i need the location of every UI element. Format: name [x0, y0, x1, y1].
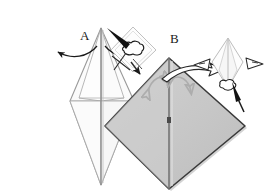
label-b: B [170, 31, 179, 46]
diagram-canvas: A B [0, 0, 270, 196]
origami-diagram-svg: A B [0, 0, 270, 196]
right-center-notch [167, 117, 171, 123]
label-a: A [80, 28, 90, 43]
